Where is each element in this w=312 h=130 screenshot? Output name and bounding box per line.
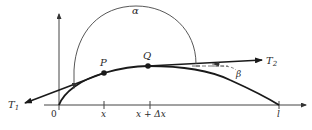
- angle-alpha-label: α: [132, 5, 139, 16]
- point-q-label: Q: [143, 50, 151, 61]
- tension-t1-label: T1: [8, 99, 19, 112]
- tick-label-l: l: [277, 109, 280, 119]
- tension-t1-vector: [25, 73, 104, 103]
- t2-sub: 2: [272, 60, 278, 68]
- angle-alpha-arc: [74, 6, 196, 88]
- tension-t2-vector: [148, 60, 262, 66]
- tick-label-x-plus-dx: x + Δx: [136, 109, 166, 119]
- point-p-label: P: [99, 57, 107, 68]
- tension-t2-label: T2: [266, 55, 278, 68]
- string-tension-diagram: 0 x x + Δx l P Q T1 T2 α β: [0, 0, 312, 130]
- angle-beta-label: β: [235, 69, 241, 79]
- string-curve: [59, 66, 279, 105]
- t1-sub: 1: [15, 104, 19, 112]
- point-q: [145, 63, 151, 69]
- beta-leader: [216, 66, 236, 70]
- tick-label-x: x: [101, 109, 106, 119]
- origin-label: 0: [51, 109, 57, 119]
- point-p: [101, 70, 107, 76]
